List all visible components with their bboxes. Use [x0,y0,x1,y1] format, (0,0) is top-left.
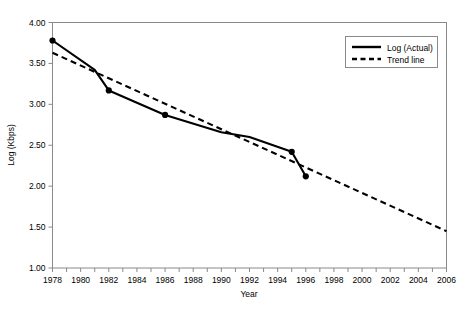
y-axis-tick-label: 1.50 [29,222,46,232]
chart-legend: Log (Actual) Trend line [346,37,438,68]
x-axis-tick-label: 1996 [296,275,315,285]
series-log-actual-markers [49,37,308,179]
y-axis-tick-label: 3.50 [29,58,46,68]
y-axis-tick-label: 2.50 [29,140,46,150]
data-point-marker [106,87,112,93]
x-axis-tick-label: 1986 [156,275,175,285]
legend-label-trend-line: Trend line [387,55,425,65]
x-axis-tick-label: 2002 [381,275,400,285]
y-axis-tick-label: 3.00 [29,99,46,109]
x-axis-tick-label: 2006 [437,275,456,285]
y-axis-tick-label: 2.00 [29,181,46,191]
line-chart: 1.001.502.002.503.003.504.00 19781980198… [0,0,466,311]
chart-container: 1.001.502.002.503.003.504.00 19781980198… [0,0,466,311]
y-axis-tick-labels: 1.001.502.002.503.003.504.00 [29,18,46,274]
y-axis-title: Log (Kbps) [6,124,16,166]
x-axis-tick-label: 1992 [240,275,259,285]
data-point-marker [49,37,55,43]
y-axis-tick-label: 1.00 [29,263,46,273]
x-axis-tick-label: 1978 [43,275,62,285]
series-trend-line [53,53,447,231]
y-axis-tick-label: 4.00 [29,18,46,28]
x-axis-tick-label: 1982 [99,275,118,285]
x-axis-tick-label: 2004 [409,275,428,285]
x-axis-ticks [53,268,447,272]
x-axis-tick-labels: 1978198019821984198619881990199219941996… [43,275,456,285]
x-axis-tick-label: 1990 [212,275,231,285]
x-axis-tick-label: 1980 [71,275,90,285]
y-axis-ticks [49,23,53,269]
data-point-marker [162,112,168,118]
x-axis-tick-label: 1998 [324,275,343,285]
series-log-actual [53,41,306,177]
x-axis-tick-label: 1984 [127,275,146,285]
x-axis-tick-label: 1988 [184,275,203,285]
data-point-marker [303,173,309,179]
x-axis-title: Year [240,289,257,299]
data-point-marker [289,149,295,155]
legend-label-log-actual: Log (Actual) [387,43,433,53]
x-axis-tick-label: 1994 [268,275,287,285]
x-axis-tick-label: 2000 [353,275,372,285]
